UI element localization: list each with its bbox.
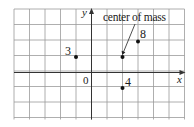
center-of-mass-point (121, 55, 125, 59)
grid (14, 9, 185, 120)
mass-label-3: 3 (65, 44, 71, 58)
origin-label: 0 (83, 74, 89, 86)
y-axis-label: y (81, 6, 87, 18)
center-of-mass-diagram: y x 0 3 8 4 center of mass (0, 0, 194, 127)
mass-label-4: 4 (125, 75, 131, 89)
mass-point (74, 55, 78, 59)
center-of-mass-label: center of mass (103, 11, 167, 23)
mass-label-8: 8 (140, 27, 146, 41)
center-of-mass-pointer-arrow (122, 24, 135, 55)
x-axis-label: x (176, 73, 182, 85)
mass-point (121, 86, 125, 90)
